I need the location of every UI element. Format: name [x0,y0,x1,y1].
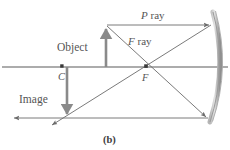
f-ray-label: F ray [127,35,152,47]
focal-point-marker [144,64,148,68]
p-ray-label-text: ray [148,9,165,21]
center-of-curvature-label: C [58,71,66,82]
image-label: Image [19,93,48,106]
f-ray-incident [107,26,206,117]
object-label: Object [57,41,88,54]
ray-diagram-figure: P ray F ray Object Image C F (b) [0,0,230,150]
p-ray-label: P ray [140,9,165,21]
f-ray-label-text: ray [135,35,152,47]
ray-diagram-svg: P ray F ray Object Image C F (b) [0,0,230,150]
center-of-curvature-marker [60,64,63,67]
focal-point-label: F [141,72,149,83]
figure-caption: (b) [103,134,116,146]
